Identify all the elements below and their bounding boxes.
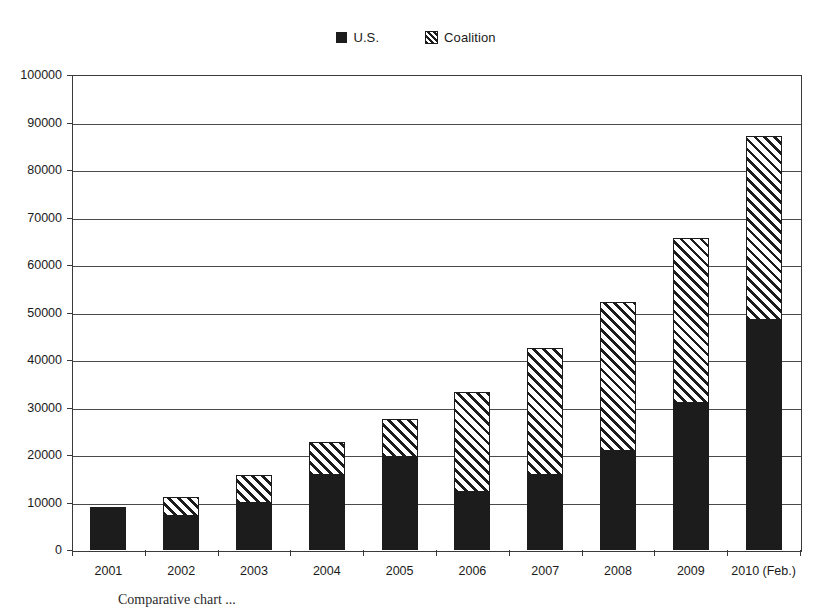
y-axis-tick-label: 0 <box>0 543 62 557</box>
x-axis-tick-label: 2009 <box>677 564 705 578</box>
legend-entry-us: U.S. <box>336 30 379 45</box>
bar-group <box>90 507 126 550</box>
x-axis-tick-mark <box>363 550 364 556</box>
x-axis: 2001200220032004200520062007200820092010… <box>72 550 800 590</box>
y-axis-tick-label: 40000 <box>0 353 62 367</box>
hatched-square-icon <box>425 31 438 44</box>
chart-legend: U.S. Coalition <box>0 30 832 45</box>
y-axis-tick-label: 90000 <box>0 116 62 130</box>
bar-segment-us <box>600 451 636 550</box>
x-axis-tick-label: 2004 <box>313 564 341 578</box>
y-axis-tick-label: 70000 <box>0 211 62 225</box>
bar-group <box>746 136 782 550</box>
x-axis-tick-label: 2001 <box>94 564 122 578</box>
figure-caption: Comparative chart ... <box>118 592 718 610</box>
x-axis-tick-label: 2010 (Feb.) <box>731 564 796 578</box>
bar-segment-coalition <box>600 302 636 451</box>
bar-segment-us <box>673 403 709 550</box>
x-axis-tick-mark <box>509 550 510 556</box>
x-axis-tick-label: 2008 <box>604 564 632 578</box>
bar-group <box>673 238 709 550</box>
y-axis-tick-label: 50000 <box>0 306 62 320</box>
x-axis-tick-mark <box>72 550 73 556</box>
solid-square-icon <box>336 32 347 43</box>
bar-group <box>236 475 272 550</box>
bar-group <box>600 302 636 550</box>
y-axis-tick-label: 80000 <box>0 163 62 177</box>
bar-segment-us <box>90 507 126 550</box>
x-axis-tick-mark <box>290 550 291 556</box>
x-axis-tick-label: 2003 <box>240 564 268 578</box>
bar-segment-us <box>454 492 490 550</box>
bar-group <box>382 419 418 550</box>
bar-group <box>527 348 563 550</box>
bar-segment-us <box>382 457 418 550</box>
bar-segment-coalition <box>163 497 199 516</box>
bar-segment-coalition <box>746 136 782 320</box>
x-axis-tick-label: 2007 <box>531 564 559 578</box>
x-axis-tick-mark <box>654 550 655 556</box>
bar-segment-us <box>236 503 272 550</box>
y-axis-tick-label: 30000 <box>0 401 62 415</box>
x-axis-tick-mark <box>436 550 437 556</box>
bar-segment-coalition <box>673 238 709 403</box>
bar-segment-us <box>309 475 345 550</box>
x-axis-tick-mark <box>582 550 583 556</box>
legend-label-us: U.S. <box>353 30 379 45</box>
x-axis-tick-label: 2005 <box>386 564 414 578</box>
bar-segment-us <box>163 516 199 550</box>
bar-segment-us <box>527 475 563 550</box>
bar-segment-coalition <box>236 475 272 503</box>
bar-segment-coalition <box>382 419 418 457</box>
y-axis-tick-label: 10000 <box>0 496 62 510</box>
x-axis-tick-mark <box>800 550 801 556</box>
y-axis-tick-label: 60000 <box>0 258 62 272</box>
bar-segment-us <box>746 320 782 550</box>
bar-group <box>454 392 490 550</box>
y-axis-tick-label: 100000 <box>0 68 62 82</box>
bar-group <box>309 442 345 550</box>
x-axis-tick-mark <box>145 550 146 556</box>
bar-segment-coalition <box>309 442 345 475</box>
y-axis-tick-label: 20000 <box>0 448 62 462</box>
x-axis-tick-mark <box>727 550 728 556</box>
bar-segment-coalition <box>527 348 563 475</box>
bar-group <box>163 497 199 550</box>
legend-label-coalition: Coalition <box>444 30 496 45</box>
x-axis-tick-label: 2006 <box>458 564 486 578</box>
legend-entry-coalition: Coalition <box>425 30 496 45</box>
x-axis-tick-mark <box>218 550 219 556</box>
stacked-bar-chart: U.S. Coalition 0100002000030000400005000… <box>0 0 832 610</box>
bar-segment-coalition <box>454 392 490 492</box>
x-axis-tick-label: 2002 <box>167 564 195 578</box>
bars-layer <box>72 75 800 550</box>
